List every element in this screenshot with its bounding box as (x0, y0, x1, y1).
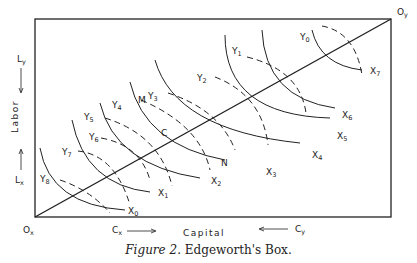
label-y7: Y7 (61, 147, 72, 159)
label-y6: Y6 (88, 132, 99, 144)
isoquant-y2 (215, 77, 268, 145)
label-y8: Y8 (39, 174, 50, 186)
isoquant-y1 (247, 57, 306, 113)
label-x5: X5 (337, 131, 347, 143)
isoquant-x4 (155, 60, 300, 143)
labor-x-label: Lx (15, 175, 24, 187)
label-y0: Y0 (299, 32, 310, 44)
caption-title: Edgeworth's Box. (185, 243, 292, 257)
isoquant-x0 (40, 148, 125, 210)
edgeworth-box-diagram: Ox Oy Cx Capital Cy Ly Labor Lx X0 X1 X2… (0, 0, 417, 263)
point-m-label: M (138, 95, 146, 105)
origin-y-label: Oy (397, 7, 408, 19)
label-y2: Y2 (196, 73, 207, 85)
label-x1: X1 (158, 188, 168, 200)
caption-prefix: Figure 2. (125, 243, 181, 257)
label-y1: Y1 (231, 46, 242, 58)
isoquant-y8 (60, 180, 110, 213)
isoquant-x5 (225, 35, 330, 118)
label-y4: Y4 (111, 100, 122, 112)
labor-y-label: Ly (17, 54, 26, 66)
label-x6: X6 (342, 110, 352, 122)
label-y5: Y5 (83, 112, 94, 124)
isoquant-y0 (322, 26, 362, 75)
isoquant-x6 (262, 30, 335, 108)
capital-x-label: Cx (112, 225, 122, 237)
label-x0: X0 (128, 206, 138, 218)
isoquant-x2 (100, 103, 200, 178)
label-x4: X4 (312, 150, 322, 162)
label-y3: Y3 (147, 91, 158, 103)
point-c-label: C (161, 128, 167, 138)
isoquant-x1 (72, 120, 150, 192)
labor-axis-label: Labor (10, 100, 20, 133)
label-x2: X2 (211, 176, 221, 188)
figure-caption: Figure 2. Edgeworth's Box. (0, 243, 417, 257)
capital-y-label: Cy (295, 224, 305, 236)
label-x7: X7 (370, 66, 380, 78)
label-x3: X3 (266, 167, 276, 179)
point-n-label: N (221, 158, 228, 168)
capital-axis-label: Capital (183, 228, 225, 238)
isoquant-y4 (141, 100, 210, 170)
origin-x-label: Ox (23, 225, 34, 237)
